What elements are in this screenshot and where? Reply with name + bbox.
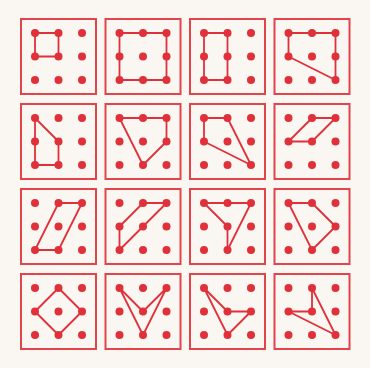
grid-dot [78,246,86,254]
grid-dot [332,308,340,316]
grid-dot [224,161,232,169]
grid-dot [139,199,147,207]
grid-dot [308,114,316,122]
grid-dot [224,284,232,292]
grid-dot [55,161,63,169]
grid-dot [55,223,63,231]
grid-dot [78,223,86,231]
grid-dot [163,138,171,146]
grid-dot [247,284,255,292]
grid-dot [31,161,39,169]
grid-dot [247,223,255,231]
grid-dot [55,284,63,292]
grid-dot [116,284,124,292]
grid-dot [308,284,316,292]
grid-dot [224,308,232,316]
panel-7 [190,104,265,179]
grid-dot [116,246,124,254]
grid-dot [224,246,232,254]
panel-6 [106,104,181,179]
grid-dot [78,308,86,316]
grid-dot [332,53,340,61]
grid-dot [285,114,293,122]
grid-dot [116,223,124,231]
grid-dot [200,161,208,169]
grid-dot [116,199,124,207]
polygon-shape [35,33,59,57]
grid-dot [116,308,124,316]
grid-dot [308,53,316,61]
panel-1 [21,19,96,94]
grid-dot [332,331,340,339]
grid-dot [116,114,124,122]
grid-dot [247,161,255,169]
grid-dot [163,199,171,207]
grid-dot [285,76,293,84]
grid-dot [308,246,316,254]
grid-dot [139,29,147,37]
grid-dot [247,331,255,339]
grid-dot [116,53,124,61]
panel-13 [21,274,96,349]
grid-dot [139,308,147,316]
grid-dot [116,161,124,169]
grid-dot [285,138,293,146]
grid-dot [139,138,147,146]
grid-dot [139,53,147,61]
grid-dot [31,138,39,146]
grid-dot [285,53,293,61]
grid-dot [308,138,316,146]
grid-dot [200,138,208,146]
grid-dot [285,284,293,292]
grid-dot [224,331,232,339]
grid-dot [31,29,39,37]
grid-dot [163,161,171,169]
grid-dot [200,331,208,339]
grid-dot [247,308,255,316]
grid-dot [139,246,147,254]
grid-dot [332,284,340,292]
grid-dot [31,114,39,122]
panel-16 [275,274,350,349]
grid-dot [332,114,340,122]
grid-dot [224,199,232,207]
grid-dot [139,331,147,339]
grid-dot [200,29,208,37]
grid-dot [247,53,255,61]
grid-dot [224,223,232,231]
grid-dot [285,161,293,169]
grid-dot [247,246,255,254]
grid-dot [247,29,255,37]
panel-board [0,0,370,368]
panel-15 [190,274,265,349]
grid-dot [78,76,86,84]
grid-dot [285,223,293,231]
grid-dot [332,246,340,254]
grid-dot [224,53,232,61]
grid-dot [308,29,316,37]
grid-dot [55,308,63,316]
grid-dot [163,29,171,37]
grid-dot [31,284,39,292]
panel-3 [190,19,265,94]
grid-dot [224,114,232,122]
grid-dot [332,199,340,207]
grid-dot [163,53,171,61]
grid-dot [78,331,86,339]
grid-dot [308,76,316,84]
grid-dot [139,161,147,169]
panel-8 [275,104,350,179]
grid-dot [78,138,86,146]
grid-dot [55,114,63,122]
grid-dot [31,199,39,207]
grid-dot [78,29,86,37]
grid-dot [78,284,86,292]
grid-dot [308,161,316,169]
grid-dot [224,29,232,37]
panel-4 [275,19,350,94]
grid-dot [200,53,208,61]
grid-dot [285,246,293,254]
grid-dot [31,53,39,61]
grid-dot [308,223,316,231]
grid-dot [200,284,208,292]
